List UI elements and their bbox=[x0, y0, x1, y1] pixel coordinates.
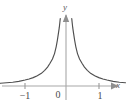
x-tick-label-pos1: 1 bbox=[94, 91, 106, 101]
y-axis-label: y bbox=[63, 3, 67, 12]
curve-right-branch bbox=[72, 19, 126, 83]
x-axis-label: x bbox=[116, 81, 120, 90]
origin-label: 0 bbox=[52, 90, 64, 100]
arrow-up-icon bbox=[63, 14, 69, 22]
x-tick-label-neg1: −1 bbox=[19, 91, 31, 101]
function-graph-figure: y x −1 0 1 bbox=[0, 0, 126, 110]
curve-left-branch bbox=[0, 19, 60, 84]
